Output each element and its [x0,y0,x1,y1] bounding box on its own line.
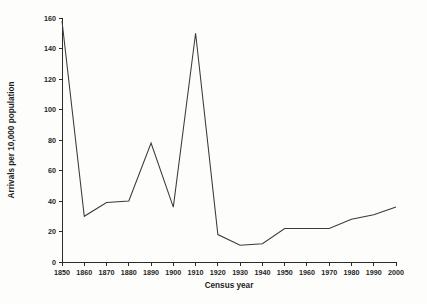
x-tick-label: 1850 [54,268,70,277]
x-tick-label: 1930 [232,268,248,277]
x-tick-label: 1870 [99,268,115,277]
y-axis-tick-labels: 020406080100120140160 [44,14,56,267]
y-tick-label: 100 [44,105,56,114]
x-axis: 1850186018701880189019001910192019301940… [54,262,404,277]
x-tick-label: 1880 [121,268,137,277]
y-tick-label: 160 [44,14,56,23]
y-tick-label: 120 [44,75,56,84]
chart-figure: 020406080100120140160 185018601870188018… [0,0,427,304]
x-axis-title: Census year [205,281,255,290]
x-axis-tick-labels: 1850186018701880189019001910192019301940… [54,268,404,277]
y-axis-title: Arrivals per 10,000 population [7,82,16,199]
x-tick-label: 1910 [188,268,204,277]
x-tick-label: 1940 [254,268,270,277]
y-axis-ticks [59,18,63,262]
x-tick-label: 1920 [210,268,226,277]
y-tick-label: 40 [48,197,56,206]
data-series-line [62,21,396,245]
x-tick-label: 1990 [366,268,382,277]
y-tick-label: 140 [44,44,56,53]
x-tick-label: 1860 [76,268,92,277]
x-tick-label: 2000 [388,268,404,277]
line-chart-plot: 020406080100120140160 185018601870188018… [0,0,427,304]
x-tick-label: 1900 [165,268,181,277]
y-tick-label: 60 [48,166,56,175]
y-tick-label: 80 [48,136,56,145]
y-axis: 020406080100120140160 [44,14,62,267]
x-tick-label: 1890 [143,268,159,277]
x-axis-ticks [62,262,396,266]
x-tick-label: 1980 [343,268,359,277]
x-tick-label: 1970 [321,268,337,277]
y-tick-label: 0 [52,258,56,267]
x-tick-label: 1950 [277,268,293,277]
y-tick-label: 20 [48,227,56,236]
x-tick-label: 1960 [299,268,315,277]
